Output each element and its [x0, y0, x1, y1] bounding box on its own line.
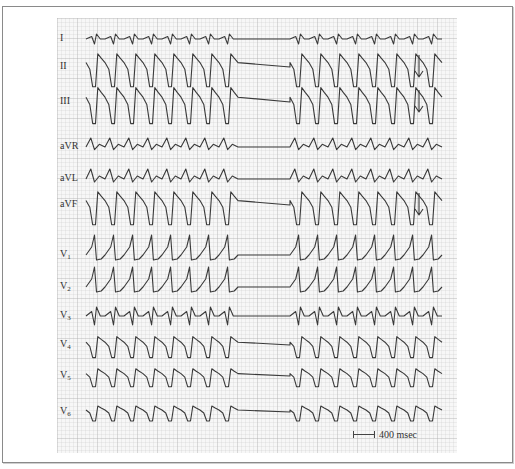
trace-v2 [86, 267, 442, 292]
trace-v4 [86, 337, 442, 358]
trace-avr [86, 138, 442, 150]
trace-avf [86, 192, 442, 225]
scale-bar-label: 400 msec [379, 429, 417, 440]
trace-i [86, 34, 442, 44]
trace-v3 [86, 307, 442, 325]
arrow-icon [415, 55, 423, 77]
scale-bar [353, 431, 375, 438]
ecg-traces [0, 0, 515, 469]
trace-iii [86, 88, 442, 124]
trace-v5 [86, 369, 442, 387]
trace-ii [86, 54, 442, 87]
trace-avl [86, 169, 442, 182]
trace-v1 [86, 235, 442, 260]
arrow-icon [415, 193, 423, 215]
arrow-icon [415, 90, 423, 112]
trace-v6 [86, 406, 442, 421]
